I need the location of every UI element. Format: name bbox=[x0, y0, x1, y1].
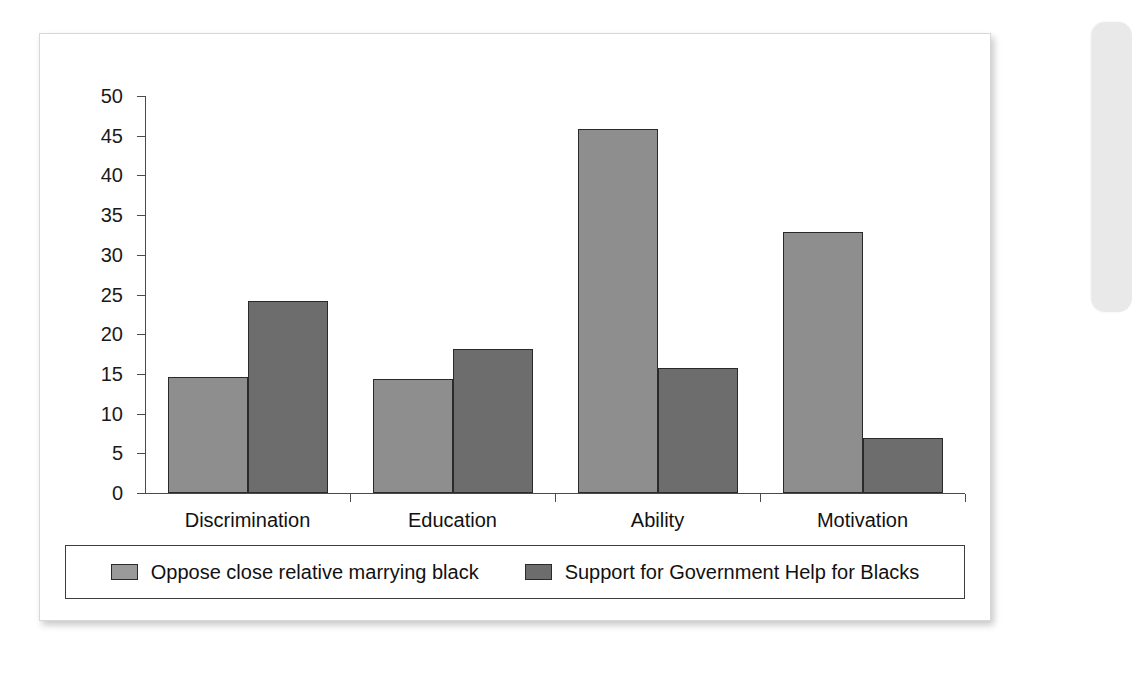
y-axis-tick-label: 20 bbox=[75, 324, 123, 344]
bar-ability-series-1 bbox=[578, 129, 658, 493]
bar-ability-series-2 bbox=[658, 368, 738, 493]
chart-card: 50454035302520151050DiscriminationEducat… bbox=[39, 33, 991, 621]
legend-swatch-series-2-icon bbox=[525, 564, 552, 580]
bar-education-series-1 bbox=[373, 379, 453, 493]
x-axis-label-discrimination: Discrimination bbox=[128, 510, 368, 530]
x-axis-category-tick bbox=[555, 494, 556, 502]
bar-motivation-series-1 bbox=[783, 232, 863, 493]
legend-label-series-2: Support for Government Help for Blacks bbox=[565, 562, 920, 582]
legend-entry-series-1: Oppose close relative marrying black bbox=[111, 562, 479, 582]
y-axis-tick-mark bbox=[137, 493, 145, 494]
y-axis-tick-label: 15 bbox=[75, 364, 123, 384]
x-axis-label-education: Education bbox=[333, 510, 573, 530]
y-axis-tick-mark bbox=[137, 414, 145, 415]
y-axis-tick-label: 35 bbox=[75, 205, 123, 225]
x-axis-category-tick bbox=[350, 494, 351, 502]
bar-education-series-2 bbox=[453, 349, 533, 493]
y-axis-tick-mark bbox=[137, 255, 145, 256]
y-axis-tick-label: 25 bbox=[75, 285, 123, 305]
x-axis-end-tick bbox=[965, 494, 966, 502]
y-axis-tick-label: 50 bbox=[75, 86, 123, 106]
y-axis-tick-mark bbox=[137, 374, 145, 375]
legend-swatch-series-1-icon bbox=[111, 564, 138, 580]
page-edge-decoration bbox=[1092, 22, 1132, 312]
bar-discrimination-series-1 bbox=[168, 377, 248, 493]
y-axis-tick-label: 45 bbox=[75, 126, 123, 146]
bar-chart-plot-area: 50454035302520151050DiscriminationEducat… bbox=[40, 34, 992, 622]
x-axis-label-ability: Ability bbox=[538, 510, 778, 530]
y-axis-tick-label: 30 bbox=[75, 245, 123, 265]
x-axis-category-tick bbox=[760, 494, 761, 502]
legend-label-series-1: Oppose close relative marrying black bbox=[151, 562, 479, 582]
y-axis-tick-mark bbox=[137, 453, 145, 454]
legend-entry-series-2: Support for Government Help for Blacks bbox=[525, 562, 920, 582]
legend-entries-container: Oppose close relative marrying black Sup… bbox=[66, 546, 964, 598]
y-axis-tick-mark bbox=[137, 136, 145, 137]
y-axis-tick-mark bbox=[137, 215, 145, 216]
bar-discrimination-series-2 bbox=[248, 301, 328, 493]
y-axis-tick-mark bbox=[137, 96, 145, 97]
x-axis-label-motivation: Motivation bbox=[743, 510, 983, 530]
bar-motivation-series-2 bbox=[863, 438, 943, 493]
y-axis-tick-label: 10 bbox=[75, 404, 123, 424]
y-axis-tick-mark bbox=[137, 295, 145, 296]
y-axis-tick-mark bbox=[137, 334, 145, 335]
y-axis-tick-label: 40 bbox=[75, 165, 123, 185]
y-axis-tick-label: 5 bbox=[75, 443, 123, 463]
y-axis-tick-mark bbox=[137, 175, 145, 176]
y-axis-tick-label: 0 bbox=[75, 483, 123, 503]
chart-legend: Oppose close relative marrying black Sup… bbox=[65, 545, 965, 599]
y-axis-line bbox=[145, 96, 146, 493]
